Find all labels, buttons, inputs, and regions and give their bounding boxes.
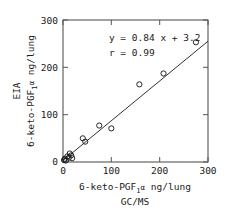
x-tick-label-300: 300 [199, 165, 216, 176]
annotation-equation: y = 0.84 x + 3.2 [109, 32, 201, 43]
figure-panel: 0 100 200 300 0 100 200 300 y = 0.84 x +… [0, 0, 231, 213]
data-point [109, 126, 114, 131]
data-point [97, 123, 102, 128]
y-tick-label-100: 100 [41, 109, 58, 120]
y-axis-title-line1: EIA [11, 82, 22, 99]
chart-svg: 0 100 200 300 0 100 200 300 y = 0.84 x +… [0, 0, 231, 213]
annotation-correlation: r = 0.99 [109, 47, 155, 58]
y-axis-title-units: ng/lung [25, 35, 36, 81]
y-tick-label-300: 300 [41, 15, 58, 26]
y-tick-label-0: 0 [52, 156, 58, 167]
data-point [137, 82, 142, 87]
x-axis-title-line2: GC/MS [121, 196, 150, 207]
data-point [161, 71, 166, 76]
y-axis-title-line2: 6-keto-PGF1α ng/lung [25, 35, 39, 147]
x-tick-label-0: 0 [60, 165, 66, 176]
annotation-group: y = 0.84 x + 3.2 r = 0.99 [109, 32, 201, 57]
x-axis-title-line1: 6-keto-PGF1α ng/lung [79, 181, 191, 195]
x-axis-title-group: 6-keto-PGF1α ng/lung GC/MS [79, 181, 191, 207]
x-axis-title-units: ng/lung [145, 181, 191, 192]
x-tick-labels: 0 100 200 300 [60, 165, 217, 176]
y-axis-title-base: 6-keto-PGF [25, 89, 36, 146]
x-tick-label-200: 200 [151, 165, 168, 176]
regression-line [63, 41, 208, 160]
y-tick-labels: 0 100 200 300 [41, 15, 58, 168]
fit-line-segment [63, 41, 208, 160]
x-tick-label-100: 100 [103, 165, 120, 176]
y-tick-label-200: 200 [41, 62, 58, 73]
y-axis-title-group: EIA 6-keto-PGF1α ng/lung [11, 35, 39, 147]
x-axis-title-base: 6-keto-PGF [79, 181, 136, 192]
scatter-chart: 0 100 200 300 0 100 200 300 y = 0.84 x +… [0, 0, 231, 213]
